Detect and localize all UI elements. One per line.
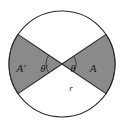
geometry-figure: A A′ θ θ′ r <box>0 0 123 125</box>
figure-canvas: A A′ θ θ′ r <box>0 0 123 125</box>
label-area-left: A′ <box>15 62 26 74</box>
label-area-right: A <box>89 62 97 74</box>
label-angle-left: θ′ <box>40 63 48 74</box>
label-radius: r <box>69 83 73 93</box>
label-angle-right: θ <box>71 63 76 74</box>
